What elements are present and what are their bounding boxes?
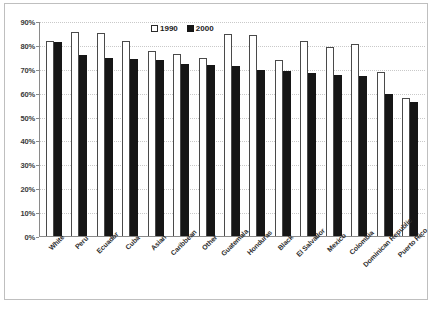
bar-2000 [410,102,418,237]
x-label-slot: Colombia [347,238,372,300]
bar-2000 [334,75,342,237]
bar-2000 [181,64,189,237]
bar-group [92,22,117,237]
x-label-slot: Honduras [245,238,270,300]
y-axis-line [39,22,40,237]
y-tick-label: 50% [21,113,35,122]
chart-frame: 0%10%20%30%40%50%60%70%80%90% WhitePeruE… [4,3,428,300]
bar-1990 [46,41,54,237]
x-label-slot: Guatemala [219,238,244,300]
y-tick-label: 30% [21,161,35,170]
y-tick-label: 40% [21,137,35,146]
bar-group [347,22,372,237]
x-label-slot: Dominican Republic [372,238,397,300]
bar-group [219,22,244,237]
bar-group [398,22,423,237]
bar-group [270,22,295,237]
bar-group [194,22,219,237]
y-tick-label: 60% [21,89,35,98]
bar-1990 [97,33,105,237]
x-label-slot: Other [194,238,219,300]
bar-1990 [275,60,283,237]
bar-1990 [377,72,385,237]
x-label-slot: El Salvador [296,238,321,300]
x-label-slot: Black [270,238,295,300]
bar-2000 [359,76,367,237]
bar-2000 [105,58,113,237]
bar-1990 [71,32,79,237]
x-label-slot: White [41,238,66,300]
x-label-slot: Peru [66,238,91,300]
bar-1990 [326,47,334,237]
x-axis-labels: WhitePeruEcuadorCubaAsianCaribbeanOtherG… [39,238,425,300]
bar-1990 [199,58,207,237]
bar-1990 [224,34,232,237]
legend-label-2000: 2000 [196,24,214,33]
x-label-slot: Caribbean [168,238,193,300]
y-tick-label: 0% [25,233,35,242]
bar-2000 [79,55,87,237]
bar-1990 [122,41,130,237]
x-label-slot: Puerto Rico [398,238,423,300]
bar-1990 [300,41,308,237]
bar-group [66,22,91,237]
y-tick-label: 10% [21,209,35,218]
x-label-slot: Mexico [321,238,346,300]
bar-1990 [249,35,257,237]
chart-legend: 1990 2000 [151,24,214,33]
bar-2000 [257,70,265,237]
legend-swatch-1990-icon [151,25,158,32]
bar-2000 [207,65,215,237]
bar-group [41,22,66,237]
bar-group [296,22,321,237]
bar-2000 [308,73,316,237]
bar-2000 [130,59,138,237]
legend-item-2000: 2000 [187,24,214,33]
bar-group [168,22,193,237]
bar-2000 [156,60,164,237]
bar-2000 [283,71,291,237]
plot-area: 0%10%20%30%40%50%60%70%80%90% [39,22,425,237]
bar-2000 [385,94,393,237]
bar-series-container [39,22,425,237]
bar-2000 [232,66,240,237]
bar-1990 [173,54,181,237]
x-label-slot: Cuba [117,238,142,300]
bar-2000 [54,42,62,237]
y-tick-label: 20% [21,185,35,194]
y-tick-label: 90% [21,18,35,27]
bar-group [321,22,346,237]
legend-swatch-2000-icon [187,25,194,32]
bar-group [245,22,270,237]
legend-item-1990: 1990 [151,24,178,33]
bar-1990 [148,51,156,237]
bar-group [117,22,142,237]
bar-1990 [351,44,359,238]
bar-group [372,22,397,237]
y-tick-label: 80% [21,41,35,50]
bar-group [143,22,168,237]
y-tick-label: 70% [21,65,35,74]
x-label-slot: Ecuador [92,238,117,300]
x-label-slot: Asian [143,238,168,300]
legend-label-1990: 1990 [160,24,178,33]
